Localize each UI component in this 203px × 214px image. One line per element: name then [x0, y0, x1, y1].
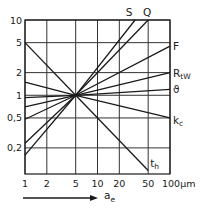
- x-axis-arrow: ae: [23, 189, 115, 204]
- y-tick-label: 0,2: [7, 142, 22, 153]
- x-axis-ticks: 125102050100µm: [22, 178, 195, 189]
- y-tick-label: 10: [10, 15, 22, 26]
- y-tick-label: 0,5: [7, 112, 22, 123]
- series-label-RtW: RtW: [173, 67, 191, 81]
- y-tick-label: 5: [16, 37, 22, 48]
- series-label-th: th: [150, 157, 159, 171]
- series-label-kc: kc: [173, 114, 183, 128]
- series-line-S: [25, 20, 135, 155]
- y-tick-label: 1: [16, 90, 22, 101]
- series-line-th: [25, 43, 148, 171]
- arrow-head-icon: [90, 195, 98, 201]
- log-log-chart: 105210,50,2 125102050100µm SQFRtWϑkcth a…: [0, 0, 203, 214]
- y-tick-label: 2: [16, 67, 22, 78]
- series-label-S: S: [126, 6, 133, 18]
- x-tick-label: 10: [91, 178, 103, 189]
- series-label-F: F: [173, 40, 179, 52]
- x-tick-label: 100µm: [162, 178, 195, 189]
- y-axis-ticks: 105210,50,2: [7, 15, 22, 154]
- series-label-Q: Q: [143, 6, 151, 18]
- x-tick-label: 5: [73, 178, 79, 189]
- x-tick-label: 50: [142, 178, 154, 189]
- x-tick-label: 2: [44, 178, 50, 189]
- x-tick-label: 1: [22, 178, 28, 189]
- x-tick-label: 20: [113, 178, 125, 189]
- series-labels: SQFRtWϑkcth: [126, 6, 191, 171]
- series-label-ϑ: ϑ: [173, 83, 180, 95]
- x-axis-label: ae: [104, 189, 115, 204]
